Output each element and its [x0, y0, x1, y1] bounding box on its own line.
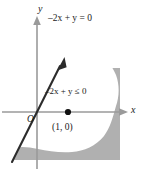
test-point-marker — [65, 109, 71, 115]
boundary-equation-label: –2x + y = 0 — [48, 14, 92, 24]
region-inequality-label: –2x + y ≤ 0 — [45, 87, 87, 96]
test-point-label: (1, 0) — [52, 123, 73, 133]
y-axis — [33, 16, 41, 169]
x-axis-label: x — [131, 105, 135, 115]
y-axis-label: y — [38, 4, 42, 14]
origin-label: O — [27, 115, 34, 125]
boundary-line — [12, 57, 67, 162]
graph-canvas — [0, 0, 143, 169]
inequality-graph-figure: y x –2x + y = 0 –2x + y ≤ 0 O (1, 0) — [0, 0, 143, 169]
